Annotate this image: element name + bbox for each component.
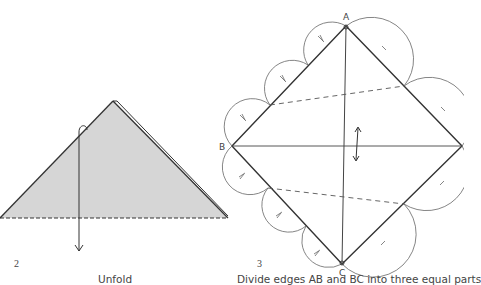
crease-arrow [356, 128, 358, 160]
arc-ad-2 [404, 77, 464, 146]
point-b-label: B [219, 142, 225, 152]
vertical-crease [342, 26, 346, 264]
arc-bc-1 [222, 146, 268, 195]
arc-ab-3 [224, 99, 270, 146]
folded-triangle [0, 101, 228, 218]
arc-dc-2 [342, 204, 416, 277]
step-3-number: 3 [257, 258, 262, 269]
step-2-caption: Unfold [98, 273, 132, 285]
step-3-caption: Divide edges AB and BC into three equal … [237, 273, 481, 285]
arc-bc-3 [302, 226, 342, 267]
arc-ad-1 [346, 17, 414, 86]
arc-ab-1 [304, 22, 346, 65]
step-3-figure [222, 17, 464, 277]
arc-dc-1 [404, 146, 464, 211]
upper-dashed-line [270, 86, 404, 105]
tick-marks [239, 35, 445, 256]
step-2-figure [0, 101, 228, 251]
point-a-label: A [343, 12, 350, 22]
arc-bc-2 [262, 188, 306, 232]
step-2-number: 2 [14, 258, 19, 269]
lower-dashed-line [268, 188, 404, 204]
arc-ab-2 [264, 60, 308, 105]
square-outline [232, 26, 462, 264]
